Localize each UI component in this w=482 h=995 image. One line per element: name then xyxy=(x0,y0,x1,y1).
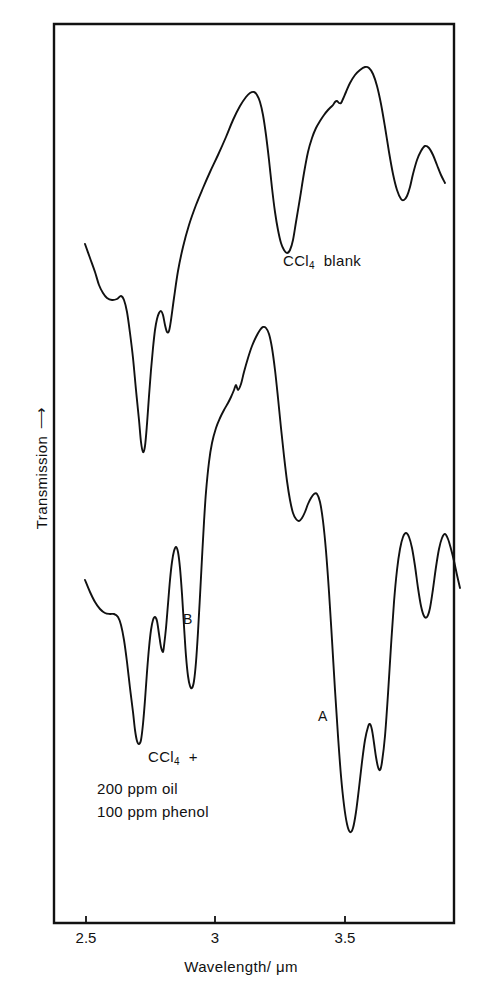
y-axis-title-wrapper: Transmission ⟶ xyxy=(24,324,58,614)
annotation-ccl4-blank: CCl4 blank xyxy=(283,252,361,269)
figure-background xyxy=(0,0,482,995)
annotation-peak-a: A xyxy=(318,708,328,724)
ir-spectrum-figure: 2.533.5 Wavelength/ μm Transmission ⟶ CC… xyxy=(0,0,482,995)
spectrum-plot-canvas xyxy=(0,0,482,995)
y-axis-title: Transmission ⟶ xyxy=(32,409,50,529)
annotation-peak-b: B xyxy=(183,611,193,627)
y-axis-title-text: Transmission xyxy=(33,436,50,529)
x-axis-title: Wavelength/ μm xyxy=(0,958,482,975)
increasing-arrow-icon: ⟶ xyxy=(32,409,50,429)
x-tick-label: 2.5 xyxy=(76,929,97,946)
x-tick-label: 3 xyxy=(211,929,219,946)
annotation-oil-concentration: 200 ppm oil xyxy=(97,780,178,797)
annotation-phenol-concentration: 100 ppm phenol xyxy=(97,803,209,820)
annotation-ccl4-plus: CCl4 + xyxy=(148,748,198,765)
x-tick-label: 3.5 xyxy=(335,929,356,946)
